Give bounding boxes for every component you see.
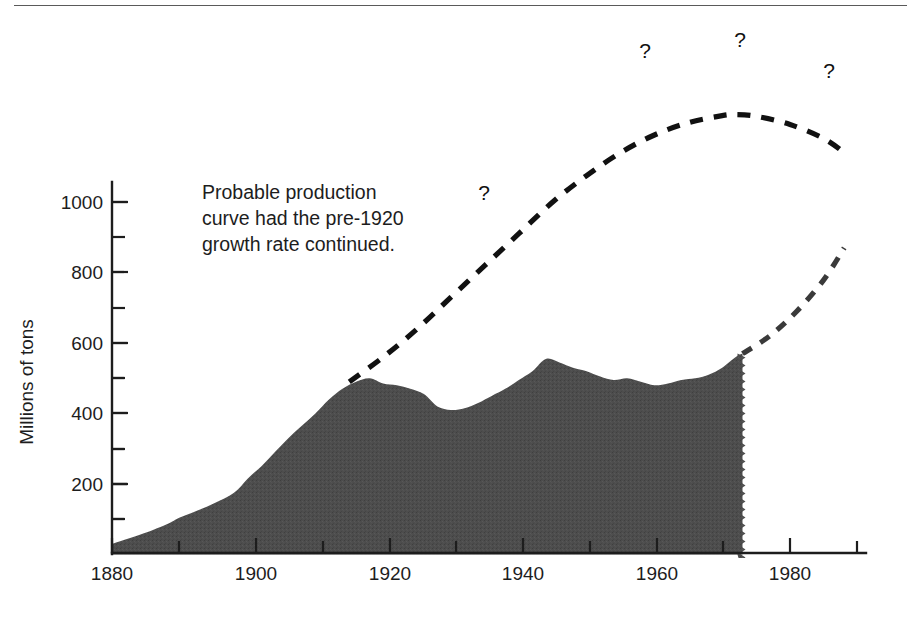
question-mark-3: ? xyxy=(734,28,746,51)
x-tick-label-1880: 1880 xyxy=(91,563,133,584)
question-mark-2: ? xyxy=(639,39,651,62)
y-tick-label-400: 400 xyxy=(71,403,103,424)
annotation-line-1: Probable production xyxy=(202,181,377,203)
y-axis-title: Millions of tons xyxy=(16,319,37,445)
y-tick-label-1000: 1000 xyxy=(61,192,103,213)
figure-root: 1000 800 600 400 200 Millions of tons 18… xyxy=(0,0,919,623)
y-axis-tick-labels: 1000 800 600 400 200 xyxy=(61,192,103,495)
x-tick-label-1980: 1980 xyxy=(769,563,811,584)
x-tick-label-1920: 1920 xyxy=(369,563,411,584)
annotation-line-3: growth rate continued. xyxy=(202,233,395,255)
chart-canvas: 1000 800 600 400 200 Millions of tons 18… xyxy=(0,0,919,623)
y-tick-label-200: 200 xyxy=(71,474,103,495)
series-actual-production-area xyxy=(112,354,746,562)
x-tick-label-1900: 1900 xyxy=(235,563,277,584)
y-tick-label-800: 800 xyxy=(71,262,103,283)
y-axis-ticks xyxy=(112,202,127,519)
series-probable-production-curve xyxy=(349,115,844,382)
x-tick-label-1940: 1940 xyxy=(502,563,544,584)
question-mark-1: ? xyxy=(478,181,490,204)
y-axis-ticks-exact xyxy=(112,202,128,519)
y-tick-label-600: 600 xyxy=(71,333,103,354)
area-path xyxy=(112,354,743,555)
question-mark-4: ? xyxy=(823,59,835,82)
annotation-line-2: curve had the pre-1920 xyxy=(202,207,404,229)
projection-question-marks: ? ? ? ? xyxy=(478,28,835,204)
x-axis-tick-labels: 1880 1900 1920 1940 1960 1980 xyxy=(91,563,811,584)
series-projected-future-production xyxy=(743,248,845,354)
annotation-text-block: Probable production curve had the pre-19… xyxy=(202,181,404,255)
x-tick-label-1960: 1960 xyxy=(636,563,678,584)
